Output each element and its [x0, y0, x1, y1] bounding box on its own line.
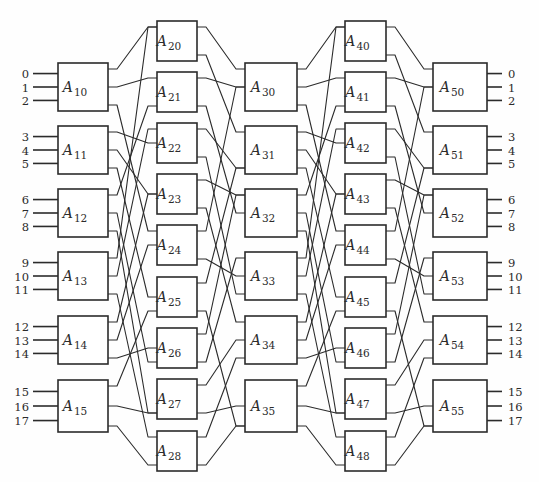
box-sublabel: 52: [451, 212, 464, 224]
input-label: 9: [22, 256, 29, 270]
box-sublabel: 35: [262, 405, 275, 417]
link-s4-s5: [386, 87, 433, 231]
input-label: 2: [22, 94, 29, 108]
link-s2-s3: [197, 195, 245, 334]
box-sublabel: 21: [168, 91, 181, 103]
box-sublabel: 24: [168, 244, 182, 256]
output-label: 11: [508, 283, 523, 297]
link-s2-s3: [197, 311, 245, 426]
link-s1-s2: [108, 294, 157, 437]
link-s4-s5: [386, 311, 433, 426]
box-sublabel: 53: [451, 275, 464, 287]
link-s3-s4: [297, 27, 345, 69]
output-label: 4: [508, 144, 515, 158]
link-s3-s4: [297, 294, 345, 437]
input-label: 15: [14, 385, 29, 399]
link-s2-s3: [197, 129, 245, 168]
output-label: 13: [508, 334, 523, 348]
input-label: 4: [22, 144, 29, 158]
box-sublabel: 46: [356, 347, 370, 359]
link-s2-s3: [197, 27, 245, 69]
output-label: 14: [508, 347, 523, 361]
link-s4-s5: [386, 195, 433, 334]
output-label: 9: [508, 256, 515, 270]
link-s3-s4: [297, 426, 345, 465]
box-sublabel: 44: [356, 244, 370, 256]
input-label: 8: [22, 220, 29, 234]
box-sublabel: 45: [356, 296, 369, 308]
box-sublabel: 47: [356, 398, 369, 410]
input-label: 0: [22, 67, 29, 81]
box-sublabel: 13: [74, 275, 87, 287]
box-sublabel: 48: [356, 450, 369, 462]
link-s4-s5: [386, 55, 433, 132]
box-sublabel: 11: [74, 149, 87, 161]
box-sublabel: 22: [168, 142, 181, 154]
box-sublabel: 27: [168, 398, 181, 410]
box-sublabel: 28: [168, 450, 181, 462]
link-s2-s3: [197, 259, 245, 276]
box-sublabel: 40: [356, 40, 369, 52]
link-s3-s4: [297, 78, 345, 87]
link-s1-s2: [108, 426, 157, 465]
box-sublabel: 50: [451, 86, 464, 98]
link-s4-s5: [386, 259, 433, 276]
link-s1-s2: [108, 150, 157, 194]
output-label: 16: [508, 400, 523, 414]
input-label: 3: [22, 130, 29, 144]
box-sublabel: 34: [262, 339, 276, 351]
link-s3-s4: [297, 406, 345, 413]
input-label: 6: [22, 193, 29, 207]
link-s4-s5: [386, 78, 433, 87]
output-label: 2: [508, 94, 515, 108]
box-sublabel: 23: [168, 193, 181, 205]
link-s3-s4: [297, 168, 345, 297]
output-label: 7: [508, 207, 515, 221]
link-s4-s5: [386, 258, 433, 362]
box-sublabel: 51: [451, 149, 464, 161]
box-sublabel: 30: [262, 86, 275, 98]
box-sublabel: 41: [356, 91, 369, 103]
box-sublabel: 14: [74, 339, 88, 351]
link-s4-s5: [386, 406, 433, 413]
box-sublabel: 25: [168, 296, 181, 308]
link-s3-s4: [297, 150, 345, 194]
input-label: 16: [14, 400, 29, 414]
link-s2-s3: [197, 180, 245, 195]
input-label: 17: [14, 414, 29, 428]
box-sublabel: 12: [74, 212, 87, 224]
output-label: 12: [508, 320, 523, 334]
link-s2-s3: [197, 78, 245, 87]
output-label: 8: [508, 220, 515, 234]
link-s2-s3: [197, 426, 245, 465]
link-s4-s5: [386, 180, 433, 195]
link-s4-s5: [386, 129, 433, 168]
input-label: 12: [14, 320, 29, 334]
box-sublabel: 31: [262, 149, 275, 161]
link-s2-s3: [197, 87, 245, 231]
link-s1-s2: [108, 78, 157, 87]
output-label: 0: [508, 67, 515, 81]
link-s1-s2: [108, 406, 157, 413]
input-label: 1: [22, 81, 29, 95]
box-sublabel: 42: [356, 142, 369, 154]
link-s2-s3: [197, 55, 245, 132]
link-s2-s3: [197, 406, 245, 413]
input-label: 13: [14, 334, 29, 348]
link-s4-s5: [386, 426, 433, 465]
output-label: 5: [508, 157, 515, 171]
input-label: 11: [14, 283, 29, 297]
link-s1-s2: [108, 27, 157, 69]
output-label: 1: [508, 81, 515, 95]
link-s1-s2: [108, 168, 157, 297]
input-label: 5: [22, 157, 29, 171]
box-sublabel: 33: [262, 275, 275, 287]
box-sublabel: 15: [74, 405, 87, 417]
box-sublabel: 20: [168, 40, 181, 52]
output-label: 6: [508, 193, 515, 207]
input-label: 7: [22, 207, 29, 221]
box-sublabel: 32: [262, 212, 275, 224]
output-label: 15: [508, 385, 523, 399]
output-label: 10: [508, 270, 523, 284]
output-label: 3: [508, 130, 515, 144]
